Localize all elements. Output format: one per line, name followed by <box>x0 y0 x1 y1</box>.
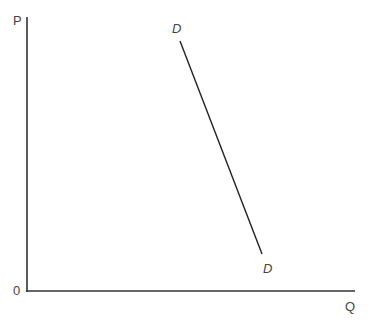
demand-curve <box>180 41 262 254</box>
diagram-canvas <box>0 0 372 322</box>
curve-label-bottom: D <box>263 262 272 275</box>
curve-label-top: D <box>172 22 181 35</box>
y-axis-label: P <box>13 14 22 27</box>
x-axis-label: Q <box>345 300 355 313</box>
origin-label: 0 <box>13 284 20 297</box>
